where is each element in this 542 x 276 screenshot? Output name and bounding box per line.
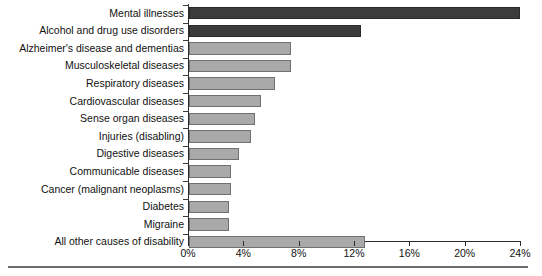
x-axis-tick	[409, 241, 410, 246]
bar-row: Respiratory diseases	[0, 75, 542, 93]
bar	[189, 42, 291, 54]
x-axis-tick-label: 20%	[454, 247, 475, 259]
bar	[189, 165, 231, 177]
bar	[189, 236, 365, 248]
y-axis-tick	[183, 75, 189, 76]
plot-area: Mental illnessesAlcohol and drug use dis…	[0, 0, 542, 250]
category-label: Mental illnesses	[109, 5, 184, 23]
bar	[189, 60, 291, 72]
x-axis-tick	[465, 241, 466, 246]
bar-row: Digestive diseases	[0, 145, 542, 163]
bar-row: Migraine	[0, 216, 542, 234]
x-axis-tick	[354, 241, 355, 246]
y-axis-tick	[183, 181, 189, 182]
bar-row: Musculoskeletal diseases	[0, 57, 542, 75]
category-label: Cancer (malignant neoplasms)	[41, 181, 184, 199]
category-label: Communicable diseases	[70, 163, 184, 181]
y-axis-tick	[183, 234, 189, 235]
bar	[189, 95, 261, 107]
category-label: Sense organ diseases	[80, 110, 184, 128]
bar	[189, 113, 255, 125]
category-label: All other causes of disability	[54, 233, 184, 251]
bar-rows: Mental illnessesAlcohol and drug use dis…	[0, 0, 542, 241]
bar-row: Alzheimer's disease and dementias	[0, 40, 542, 58]
bar-row: Alcohol and drug use disorders	[0, 22, 542, 40]
y-axis-tick	[183, 128, 189, 129]
x-axis-tick	[243, 241, 244, 246]
bar	[189, 218, 229, 230]
x-axis-tick-label: 8%	[291, 247, 306, 259]
y-axis-tick	[183, 93, 189, 94]
bar	[189, 130, 251, 142]
bar	[189, 183, 231, 195]
y-axis-tick	[183, 58, 189, 59]
bar-row: Mental illnesses	[0, 5, 542, 23]
category-label: Musculoskeletal diseases	[65, 57, 184, 75]
bar	[189, 77, 275, 89]
category-label: Alcohol and drug use disorders	[39, 22, 184, 40]
y-axis-tick	[183, 111, 189, 112]
x-axis-tick-label: 4%	[236, 247, 251, 259]
x-axis-tick	[520, 241, 521, 246]
bar-row: Diabetes	[0, 198, 542, 216]
bar	[189, 148, 239, 160]
y-axis-tick	[183, 23, 189, 24]
bar-row: Cancer (malignant neoplasms)	[0, 181, 542, 199]
bar-row: Communicable diseases	[0, 163, 542, 181]
x-axis-tick-label: 16%	[399, 247, 420, 259]
x-axis-tick-label: 0%	[180, 247, 195, 259]
category-label: Injuries (disabling)	[99, 128, 184, 146]
y-axis-tick	[183, 5, 189, 6]
x-axis-tick-label: 12%	[343, 247, 364, 259]
bar	[189, 25, 361, 37]
y-axis-tick	[183, 199, 189, 200]
bar	[189, 201, 229, 213]
bar-row: Injuries (disabling)	[0, 128, 542, 146]
bar-row: Cardiovascular diseases	[0, 93, 542, 111]
category-label: Cardiovascular diseases	[70, 93, 184, 111]
category-label: Alzheimer's disease and dementias	[19, 40, 184, 58]
x-axis-tick-label: 24%	[509, 247, 530, 259]
category-label: Migraine	[144, 216, 184, 234]
bar-chart: Mental illnessesAlcohol and drug use dis…	[0, 0, 542, 276]
x-axis-tick	[299, 241, 300, 246]
category-label: Digestive diseases	[96, 145, 184, 163]
y-axis-tick	[183, 163, 189, 164]
y-axis-tick	[183, 40, 189, 41]
category-label: Respiratory diseases	[86, 75, 184, 93]
y-axis-tick	[183, 146, 189, 147]
footer-rule	[8, 266, 528, 268]
y-axis-tick	[183, 216, 189, 217]
bar	[189, 7, 520, 19]
category-label: Diabetes	[143, 198, 184, 216]
x-axis-tick	[188, 241, 189, 246]
bar-row: Sense organ diseases	[0, 110, 542, 128]
